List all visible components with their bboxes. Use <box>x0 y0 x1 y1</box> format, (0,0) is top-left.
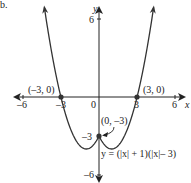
callout-arrowhead-icon <box>102 132 108 137</box>
label-3-0: (3, 0) <box>143 84 165 96</box>
x-tick-neg6: –6 <box>16 99 27 110</box>
label-0-neg3: (0, –3) <box>101 115 128 127</box>
figure-label: b. <box>0 0 8 10</box>
x-tick-0: 0 <box>91 99 96 110</box>
x-axis-label: x <box>184 99 190 110</box>
y-axis-label: y <box>92 3 98 14</box>
point-0-neg3 <box>96 133 101 138</box>
y-tick-neg3: –3 <box>81 131 92 142</box>
point-neg3-0 <box>58 94 63 99</box>
function-label: y = (|x| + 1)(|x|– 3) <box>101 148 176 160</box>
x-tick-6: 6 <box>172 99 177 110</box>
label-neg3-0: (–3, 0) <box>28 84 55 96</box>
y-tick-6: 6 <box>89 14 94 25</box>
y-tick-neg6: –6 <box>83 169 94 180</box>
point-3-0 <box>134 94 139 99</box>
graph-canvas: b. –6 –3 0 3 6 6 –3 –6 x y (–3, 0) (3, 0… <box>0 0 191 183</box>
